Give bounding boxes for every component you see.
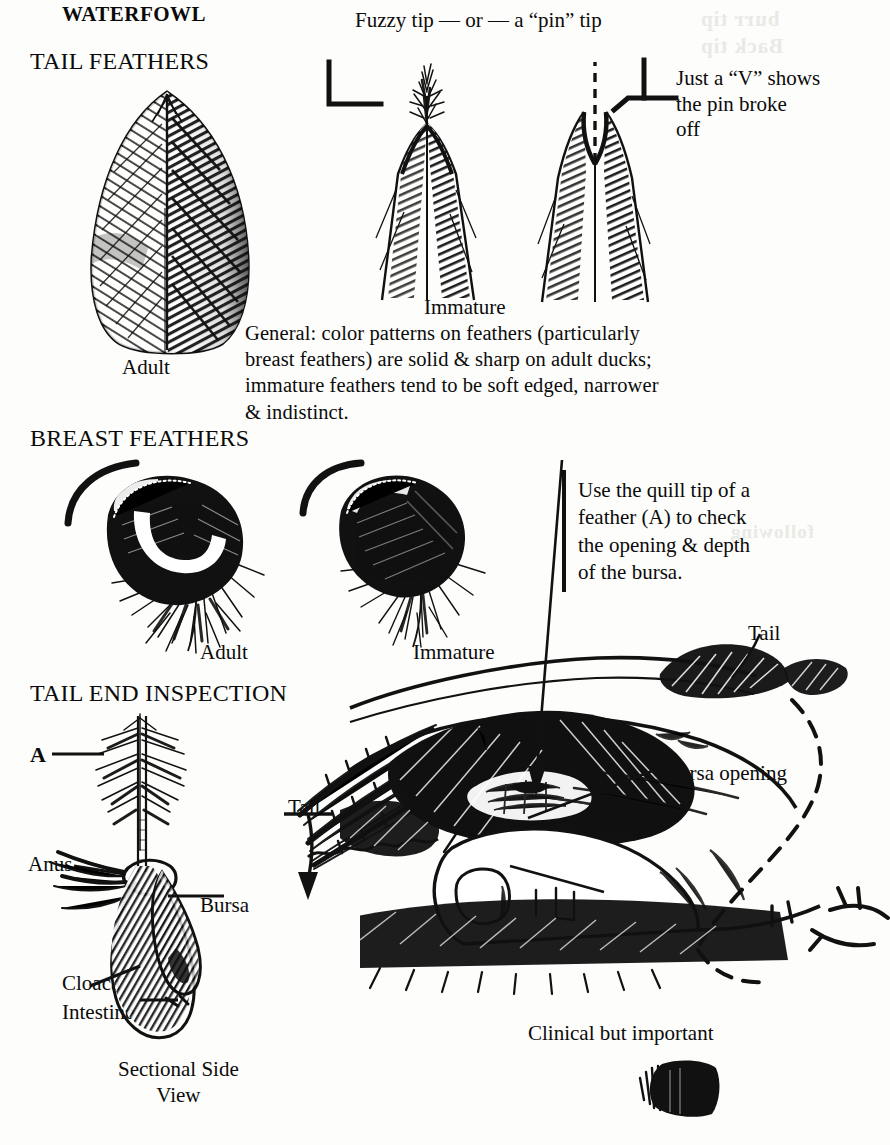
quill-instruction-rule <box>562 470 566 592</box>
general-note: General: color patterns on feathers (par… <box>245 320 659 425</box>
hand-and-duck-illustration <box>360 600 890 1050</box>
section-heading-breast-feathers: BREAST FEATHERS <box>30 425 249 453</box>
section-heading-tail-feathers: TAIL FEATHERS <box>30 48 209 76</box>
quill-instruction-text: Use the quill tip of a feather (A) to ch… <box>578 477 750 586</box>
bleed-through-top-right: burr tip Back tip <box>700 6 783 61</box>
sectional-side-view-caption: Sectional Side View <box>118 1056 239 1109</box>
pin-broke-note: Just a “V” shows the pin broke off <box>676 66 820 143</box>
adult-breast-feather-illustration <box>62 455 302 655</box>
fuzzy-tip-caption: Fuzzy tip — or — a “pin” tip <box>355 8 602 32</box>
pin-tip-bracket <box>600 58 680 112</box>
adult-tail-feather-label: Adult <box>122 355 170 379</box>
guide-page: burr tip Back tip following WATERFOWL TA… <box>0 0 890 1145</box>
immature-pin-tip-feather-illustration <box>520 100 670 305</box>
adult-tail-feather-illustration <box>62 88 277 356</box>
fuzzy-tip-bracket <box>325 60 385 112</box>
ink-smudge-mark <box>636 1058 726 1120</box>
page-title: WATERFOWL <box>62 2 206 26</box>
